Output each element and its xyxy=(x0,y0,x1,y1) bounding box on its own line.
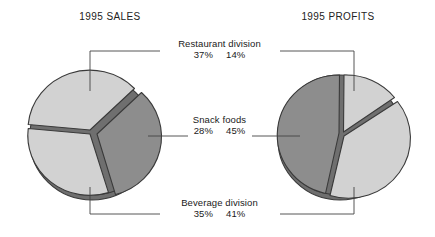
value-snack-profits: 45% xyxy=(226,125,245,136)
label-restaurant-division: Restaurant division 37% 14% xyxy=(147,38,292,60)
label-restaurant-name: Restaurant division xyxy=(147,38,292,49)
chart-title-sales: 1995 SALES xyxy=(40,11,180,22)
label-beverage-name: Beverage division xyxy=(147,197,292,208)
label-snack-foods: Snack foods 28% 45% xyxy=(147,114,292,136)
label-snack-name: Snack foods xyxy=(147,114,292,125)
value-restaurant-sales: 37% xyxy=(194,49,213,60)
label-beverage-division: Beverage division 35% 41% xyxy=(147,197,292,219)
chart-title-profits: 1995 PROFITS xyxy=(268,11,408,22)
label-beverage-values: 35% 41% xyxy=(147,208,292,219)
label-snack-values: 28% 45% xyxy=(147,125,292,136)
value-restaurant-profits: 14% xyxy=(226,49,245,60)
label-restaurant-values: 37% 14% xyxy=(147,49,292,60)
value-beverage-sales: 35% xyxy=(194,208,213,219)
pie-chart-figure: 1995 SALES 1995 PROFITS xyxy=(0,0,435,237)
value-snack-sales: 28% xyxy=(194,125,213,136)
value-beverage-profits: 41% xyxy=(226,208,245,219)
